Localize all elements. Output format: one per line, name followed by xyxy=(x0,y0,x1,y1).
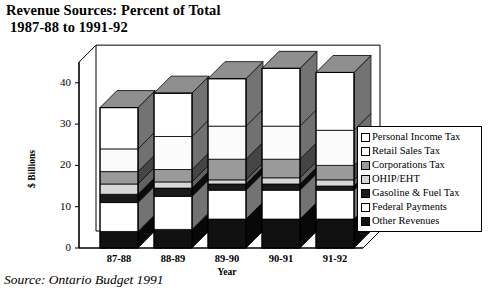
legend-item-label: Personal Income Tax xyxy=(372,131,460,143)
source-note: Source: Ontario Budget 1991 xyxy=(4,272,164,288)
y-axis-tick-label: 40 xyxy=(45,76,71,88)
legend-item: Personal Income Tax xyxy=(361,130,479,144)
chart-page: Revenue Sources: Percent of Total 1987-8… xyxy=(0,0,488,296)
y-axis-tick-label: 10 xyxy=(45,200,71,212)
legend-item: Gasoline & Fuel Tax xyxy=(361,186,479,200)
legend-item-label: Federal Payments xyxy=(372,201,447,213)
y-axis-tick-label: 20 xyxy=(45,158,71,170)
legend-item-label: Gasoline & Fuel Tax xyxy=(372,187,459,199)
x-axis-tick-label: 89-90 xyxy=(197,253,257,264)
x-axis-tick-label: 90-91 xyxy=(251,253,311,264)
legend-swatch-icon xyxy=(361,175,370,184)
legend-swatch-icon xyxy=(361,189,370,198)
legend-item: Other Revenues xyxy=(361,214,479,228)
legend-swatch-icon xyxy=(361,217,370,226)
x-axis-title: Year xyxy=(187,267,267,277)
x-axis-tick-label: 87-88 xyxy=(89,253,149,264)
x-axis-tick-label: 91-92 xyxy=(305,253,365,264)
legend-item: Federal Payments xyxy=(361,200,479,214)
legend-swatch-icon xyxy=(361,147,370,156)
legend-item-label: Other Revenues xyxy=(372,215,439,227)
legend-item: Corporations Tax xyxy=(361,158,479,172)
y-axis-tick-label: 30 xyxy=(45,117,71,129)
legend-item-label: OHIP/EHT xyxy=(372,173,420,185)
chart-title: Revenue Sources: Percent of Total 1987-8… xyxy=(6,2,426,36)
chart-plot-area: $ Billions 010203040 87-8888-8989-9090-9… xyxy=(0,44,488,266)
chart-title-line-2: 1987-88 to 1991-92 xyxy=(6,19,426,36)
legend-swatch-icon xyxy=(361,203,370,212)
legend-item: OHIP/EHT xyxy=(361,172,479,186)
legend-item: Retail Sales Tax xyxy=(361,144,479,158)
chart-title-line-1: Revenue Sources: Percent of Total xyxy=(6,2,426,19)
x-axis-tick-label: 88-89 xyxy=(143,253,203,264)
chart-legend: Personal Income TaxRetail Sales TaxCorpo… xyxy=(357,126,482,232)
legend-swatch-icon xyxy=(361,133,370,142)
y-axis-tick-label: 0 xyxy=(45,241,71,253)
legend-item-label: Retail Sales Tax xyxy=(372,145,440,157)
y-axis-title: $ Billions xyxy=(27,129,37,209)
legend-swatch-icon xyxy=(361,161,370,170)
legend-item-label: Corporations Tax xyxy=(372,159,445,171)
